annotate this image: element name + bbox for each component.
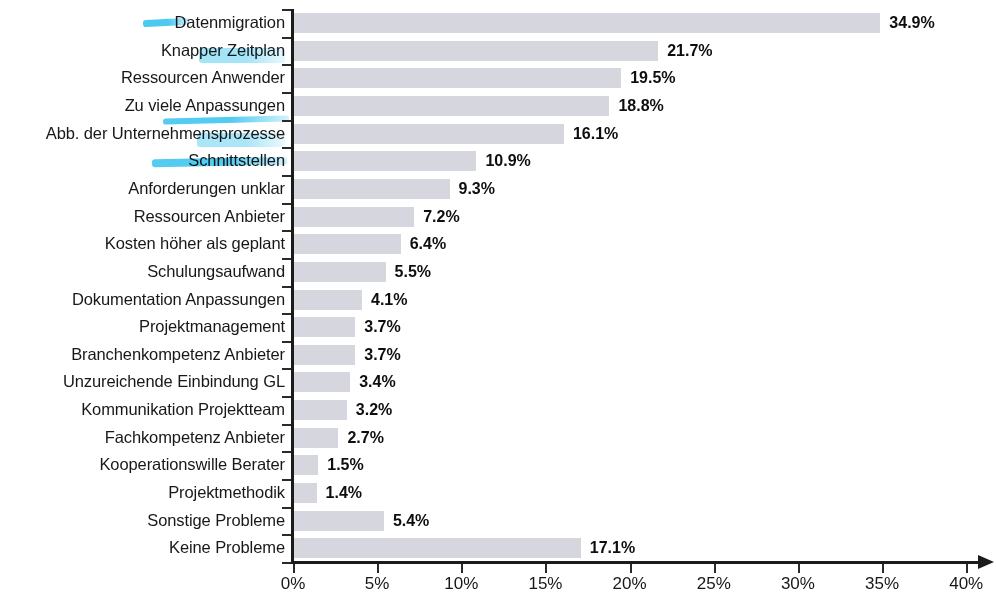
bar [293,345,355,365]
x-axis-tick [630,564,632,573]
bar-value-label: 3.2% [356,399,392,420]
bar-row: Anforderungen unklar9.3% [0,179,996,199]
bar-chart: Datenmigration34.9%Knapper Zeitplan21.7%… [0,0,996,602]
bar [293,151,476,171]
category-label: Projektmanagement [4,316,285,337]
bar [293,290,362,310]
y-axis-tick [282,258,291,260]
bar-value-label: 19.5% [630,67,675,88]
y-axis-tick [282,507,291,509]
bar-row: Ressourcen Anwender19.5% [0,68,996,88]
category-label: Kosten höher als geplant [4,233,285,254]
x-axis-tick [545,564,547,573]
bar-row: Sonstige Probleme5.4% [0,511,996,531]
x-axis-tick [461,564,463,573]
x-axis-tick-label: 25% [674,574,754,594]
bar-value-label: 18.8% [618,95,663,116]
category-label: Knapper Zeitplan [4,40,285,61]
y-axis-tick [282,368,291,370]
bar-value-label: 6.4% [410,233,446,254]
bar [293,538,581,558]
x-axis-tick [798,564,800,573]
y-axis-tick [282,341,291,343]
y-axis-tick [282,562,291,564]
x-axis-tick [377,564,379,573]
bar [293,124,564,144]
category-label: Sonstige Probleme [4,510,285,531]
y-axis-tick [282,92,291,94]
bar-row: Schulungsaufwand5.5% [0,262,996,282]
y-axis-tick [282,479,291,481]
category-label: Projektmethodik [4,482,285,503]
y-axis-tick [282,37,291,39]
bar [293,372,350,392]
bar-value-label: 1.4% [326,482,362,503]
y-axis-tick [282,203,291,205]
bar-value-label: 4.1% [371,289,407,310]
bar [293,68,621,88]
bar [293,317,355,337]
bar [293,455,318,475]
bar-row: Unzureichende Einbindung GL3.4% [0,372,996,392]
y-axis-tick [282,147,291,149]
x-axis-tick-label: 30% [758,574,838,594]
category-label: Branchenkompetenz Anbieter [4,344,285,365]
bar-value-label: 1.5% [327,454,363,475]
bar-row: Fachkompetenz Anbieter2.7% [0,428,996,448]
bar-row: Kooperationswille Berater1.5% [0,455,996,475]
bar-value-label: 2.7% [347,427,383,448]
y-axis-line [291,9,294,562]
bar [293,96,609,116]
bar-value-label: 5.5% [395,261,431,282]
x-axis-tick-label: 15% [505,574,585,594]
bar-value-label: 5.4% [393,510,429,531]
bar [293,13,880,33]
x-axis-line [291,561,984,564]
bar-row: Knapper Zeitplan21.7% [0,41,996,61]
y-axis-tick [282,9,291,11]
category-label: Kooperationswille Berater [4,454,285,475]
bar-value-label: 9.3% [459,178,495,199]
category-label: Abb. der Unternehmensprozesse [4,123,285,144]
y-axis-tick [282,120,291,122]
bar-row: Projektmethodik1.4% [0,483,996,503]
bar-row: Zu viele Anpassungen18.8% [0,96,996,116]
bar-value-label: 7.2% [423,206,459,227]
bar-row: Abb. der Unternehmensprozesse16.1% [0,124,996,144]
y-axis-tick [282,230,291,232]
category-label: Unzureichende Einbindung GL [4,371,285,392]
bar-row: Projektmanagement3.7% [0,317,996,337]
bar [293,207,414,227]
bar-row: Kosten höher als geplant6.4% [0,234,996,254]
category-label: Dokumentation Anpassungen [4,289,285,310]
bar-row: Dokumentation Anpassungen4.1% [0,290,996,310]
category-label: Kommunikation Projektteam [4,399,285,420]
category-label: Schnittstellen [4,150,285,171]
x-axis-tick-label: 40% [926,574,996,594]
bar-row: Datenmigration34.9% [0,13,996,33]
bar-value-label: 10.9% [485,150,530,171]
category-label: Fachkompetenz Anbieter [4,427,285,448]
category-label: Keine Probleme [4,537,285,558]
category-label: Schulungsaufwand [4,261,285,282]
bar-row: Keine Probleme17.1% [0,538,996,558]
y-axis-tick [282,286,291,288]
x-axis-arrow-icon [978,555,994,569]
category-label: Datenmigration [4,12,285,33]
x-axis-tick-label: 35% [842,574,922,594]
y-axis-tick [282,451,291,453]
category-label: Anforderungen unklar [4,178,285,199]
bar [293,400,347,420]
bar-row: Ressourcen Anbieter7.2% [0,207,996,227]
bar-value-label: 34.9% [889,12,934,33]
bar [293,234,401,254]
x-axis-tick [966,564,968,573]
y-axis-tick [282,175,291,177]
bar-value-label: 21.7% [667,40,712,61]
bar-row: Kommunikation Projektteam3.2% [0,400,996,420]
y-axis-tick [282,313,291,315]
x-axis-tick-label: 10% [421,574,501,594]
bar [293,41,658,61]
bar [293,428,338,448]
x-axis-tick [714,564,716,573]
